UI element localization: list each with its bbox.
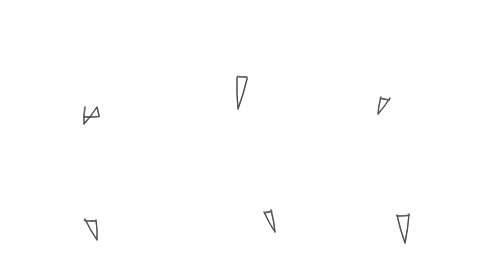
speech-bubble-4	[84, 219, 97, 240]
speech-bubble-canvas	[0, 0, 486, 259]
speech-bubble-1	[84, 107, 100, 124]
speech-bubble-6	[397, 214, 410, 243]
speech-bubble-outline	[237, 77, 247, 110]
speech-bubble-2	[237, 76, 247, 109]
speech-bubble-3	[378, 97, 390, 114]
speech-bubble-5	[264, 210, 275, 232]
